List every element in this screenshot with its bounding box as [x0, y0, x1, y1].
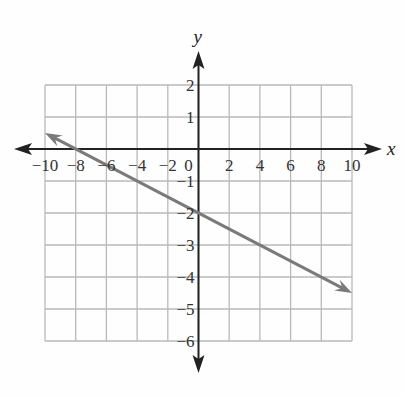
x-tick-label: 6	[286, 156, 295, 175]
y-tick-label: 2	[186, 76, 195, 95]
x-tick-label: 4	[256, 156, 265, 175]
x-tick-label: 10	[344, 156, 361, 175]
y-tick-label: −5	[176, 300, 194, 319]
y-tick-label: −6	[176, 332, 194, 351]
x-tick-label: −2	[159, 156, 177, 175]
x-tick-label: 8	[317, 156, 326, 175]
x-axis-label: x	[386, 138, 396, 159]
x-tick-label: −6	[97, 156, 115, 175]
x-tick-label: 2	[225, 156, 234, 175]
tick-labels: xy−10−8−6−4−2024681021−1−2−3−4−5−6	[32, 26, 396, 351]
x-tick-label: −4	[128, 156, 147, 175]
y-axis-label: y	[192, 26, 203, 47]
coordinate-plane: xy−10−8−6−4−2024681021−1−2−3−4−5−6	[0, 0, 404, 396]
y-tick-label: −4	[176, 268, 195, 287]
y-tick-label: 1	[186, 108, 195, 127]
y-tick-label: −2	[176, 204, 194, 223]
y-tick-label: −3	[176, 236, 194, 255]
x-tick-label: −10	[32, 156, 59, 175]
y-tick-label: −1	[176, 172, 194, 191]
x-tick-label: −8	[67, 156, 85, 175]
